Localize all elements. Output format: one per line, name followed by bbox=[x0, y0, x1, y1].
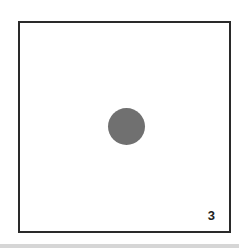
dot-card[interactable]: 3 bbox=[18, 21, 231, 233]
bottom-bar bbox=[0, 244, 239, 248]
card-number: 3 bbox=[208, 208, 215, 223]
dot-icon bbox=[108, 108, 145, 145]
